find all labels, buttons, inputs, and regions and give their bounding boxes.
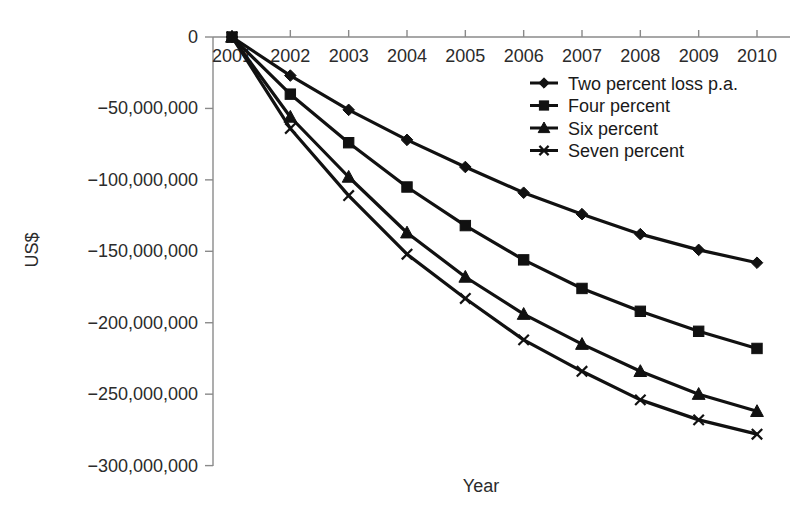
legend: Two percent loss p.a.Four percentSix per… xyxy=(530,74,738,162)
legend-item-label: Two percent loss p.a. xyxy=(568,74,738,94)
marker-diamond xyxy=(460,161,472,173)
marker-x xyxy=(518,335,528,345)
x-tick-label: 2005 xyxy=(445,46,485,66)
y-tick-label: −300,000,000 xyxy=(87,456,198,476)
marker-square xyxy=(402,182,412,192)
x-tick-label: 2009 xyxy=(679,46,719,66)
legend-item[interactable]: Four percent xyxy=(530,96,670,116)
marker-x xyxy=(460,293,470,303)
legend-item-label: Six percent xyxy=(568,119,658,139)
marker-square xyxy=(539,101,548,110)
y-tick-label: −50,000,000 xyxy=(97,98,198,118)
y-tick-label: −200,000,000 xyxy=(87,313,198,333)
marker-diamond xyxy=(539,78,549,88)
marker-square xyxy=(285,89,295,99)
y-tick-label: 0 xyxy=(188,27,198,47)
y-tick-label: −100,000,000 xyxy=(87,170,198,190)
marker-x xyxy=(285,123,295,133)
marker-square xyxy=(518,255,528,265)
marker-square xyxy=(343,138,353,148)
x-tick-label: 2002 xyxy=(270,46,310,66)
marker-square xyxy=(635,306,645,316)
x-tick-label: 2007 xyxy=(562,46,602,66)
line-chart: 0−50,000,000−100,000,000−150,000,000−200… xyxy=(0,0,811,527)
marker-diamond xyxy=(635,228,647,240)
series-line xyxy=(232,37,757,434)
marker-diamond xyxy=(751,257,763,269)
x-tick-label: 2008 xyxy=(620,46,660,66)
marker-square xyxy=(693,326,703,336)
marker-diamond xyxy=(576,208,588,220)
y-axis-title: US$ xyxy=(22,232,42,267)
x-tick-label: 2010 xyxy=(737,46,777,66)
marker-square xyxy=(460,220,470,230)
chart-container: 0−50,000,000−100,000,000−150,000,000−200… xyxy=(0,0,811,527)
x-tick-label-group: 2001200220032004200520062007200820092010 xyxy=(212,46,777,66)
marker-x xyxy=(402,249,412,259)
x-tick-label: 2004 xyxy=(387,46,427,66)
legend-item[interactable]: Seven percent xyxy=(530,141,684,161)
x-tick-label: 2003 xyxy=(329,46,369,66)
legend-item-label: Seven percent xyxy=(568,141,684,161)
y-tick-label: −150,000,000 xyxy=(87,241,198,261)
marker-square xyxy=(577,283,587,293)
marker-triangle xyxy=(517,308,530,320)
legend-item[interactable]: Two percent loss p.a. xyxy=(530,74,738,94)
x-tick-group xyxy=(232,30,757,37)
legend-item[interactable]: Six percent xyxy=(530,119,658,139)
y-tick-group: 0−50,000,000−100,000,000−150,000,000−200… xyxy=(87,27,213,476)
marker-x xyxy=(343,190,353,200)
marker-x xyxy=(577,366,587,376)
marker-diamond xyxy=(401,134,413,146)
x-tick-label: 2006 xyxy=(504,46,544,66)
marker-square xyxy=(752,343,762,353)
marker-diamond xyxy=(518,187,530,199)
y-tick-label: −250,000,000 xyxy=(87,384,198,404)
legend-item-label: Four percent xyxy=(568,96,670,116)
x-axis-title: Year xyxy=(463,476,499,496)
marker-diamond xyxy=(693,244,705,256)
